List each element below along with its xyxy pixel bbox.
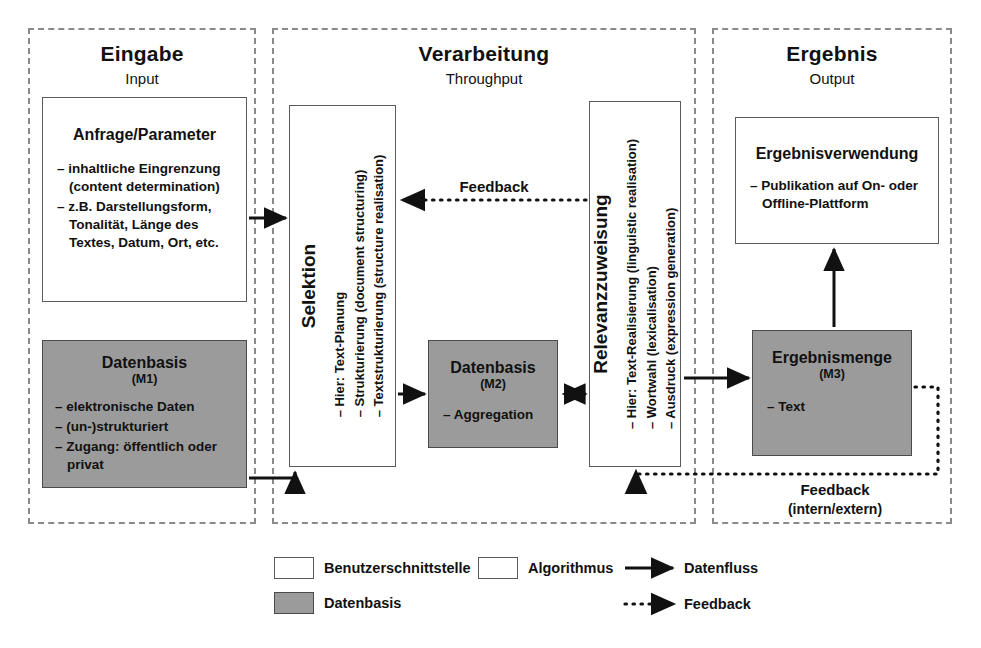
- bullet: – (un-)strukturiert: [55, 418, 238, 436]
- bullet: – Publikation auf On- oder Offline-Platt…: [750, 177, 930, 213]
- legend-swatch-datenbasis: [274, 592, 314, 614]
- bullet: – Aggregation: [443, 406, 551, 424]
- box-datenbasis-m2-title: Datenbasis: [429, 359, 557, 377]
- bullet: – Hier: Text-Planung: [329, 155, 349, 418]
- box-ergebnisverwendung-title: Ergebnisverwendung: [736, 145, 938, 163]
- box-datenbasis-m1[interactable]: Datenbasis (M1) – elektronische Daten – …: [42, 340, 247, 488]
- box-ergebnismenge[interactable]: Ergebnismenge (M3) – Text: [752, 330, 912, 456]
- bullet: – inhaltliche Eingrenzung (content deter…: [57, 160, 236, 196]
- label-feedback-bottom: Feedback: [760, 481, 910, 498]
- bullet: – z.B. Darstellungsform, Tonalität, Läng…: [57, 198, 236, 251]
- box-relevanzzuweisung-bullets: – Hier: Text-Realisierung (linguistic re…: [622, 139, 681, 429]
- box-ergebnismenge-title: Ergebnismenge: [753, 349, 911, 367]
- box-ergebnisverwendung[interactable]: Ergebnisverwendung – Publikation auf On-…: [735, 117, 939, 244]
- label-feedback-bottom-sub: (intern/extern): [760, 501, 910, 517]
- panel-verarbeitung-title: Verarbeitung: [272, 42, 696, 66]
- box-anfrage-parameter[interactable]: Anfrage/Parameter – inhaltliche Eingrenz…: [42, 97, 247, 302]
- box-relevanzzuweisung[interactable]: Relevanzzuweisung – Hier: Text-Realisier…: [589, 101, 681, 467]
- panel-verarbeitung-subtitle: Throughput: [272, 70, 696, 87]
- legend-label-benutzerschnittstelle: Benutzerschnittstelle: [324, 560, 471, 576]
- legend-label-datenbasis: Datenbasis: [324, 595, 401, 611]
- bullet: – Wortwahl (lexicalisation): [641, 139, 661, 429]
- legend-label-algorithmus: Algorithmus: [528, 560, 613, 576]
- box-relevanzzuweisung-title: Relevanzzuweisung: [590, 194, 612, 374]
- label-feedback-top: Feedback: [424, 178, 564, 195]
- panel-eingabe-title: Eingabe: [28, 42, 256, 66]
- box-selektion-content: Selektion – Hier: Text-Planung – Struktu…: [297, 155, 388, 418]
- panel-eingabe-subtitle: Input: [28, 70, 256, 87]
- bullet: – Textstrukturierung (structure realisat…: [368, 155, 388, 418]
- box-datenbasis-m1-title: Datenbasis: [43, 354, 246, 372]
- diagram-canvas: Eingabe Input Verarbeitung Throughput Er…: [0, 0, 981, 648]
- bullet: – Strukturierung (document structuring): [349, 155, 369, 418]
- box-datenbasis-m2[interactable]: Datenbasis (M2) – Aggregation: [428, 340, 558, 448]
- panel-ergebnis-title: Ergebnis: [712, 42, 952, 66]
- box-selektion-bullets: – Hier: Text-Planung – Strukturierung (d…: [329, 155, 388, 418]
- box-relevanzzuweisung-content: Relevanzzuweisung – Hier: Text-Realisier…: [590, 139, 681, 429]
- box-anfrage-bullets: – inhaltliche Eingrenzung (content deter…: [57, 160, 236, 251]
- legend-swatch-benutzerschnittstelle: [274, 557, 314, 579]
- panel-ergebnis-subtitle: Output: [712, 70, 952, 87]
- box-datenbasis-m2-subtitle: (M2): [429, 377, 557, 392]
- legend-swatch-algorithmus: [478, 557, 518, 579]
- bullet: – Zugang: öffentlich oder privat: [55, 438, 238, 474]
- box-ergebnismenge-subtitle: (M3): [753, 367, 911, 382]
- box-selektion-title: Selektion: [297, 244, 319, 328]
- legend-label-datenfluss: Datenfluss: [684, 560, 758, 576]
- box-datenbasis-m2-bullets: – Aggregation: [443, 406, 551, 424]
- box-anfrage-title: Anfrage/Parameter: [43, 126, 246, 144]
- bullet: – Text: [767, 398, 905, 416]
- bullet: – Ausdruck (expression generation): [661, 139, 681, 429]
- box-ergebnisverwendung-bullets: – Publikation auf On- oder Offline-Platt…: [750, 177, 930, 213]
- box-selektion[interactable]: Selektion – Hier: Text-Planung – Struktu…: [289, 105, 396, 467]
- box-datenbasis-m1-bullets: – elektronische Daten – (un-)strukturier…: [55, 398, 238, 473]
- legend-label-feedback: Feedback: [684, 596, 751, 612]
- bullet: – elektronische Daten: [55, 398, 238, 416]
- bullet: – Hier: Text-Realisierung (linguistic re…: [622, 139, 642, 429]
- box-ergebnismenge-bullets: – Text: [767, 398, 905, 416]
- box-datenbasis-m1-subtitle: (M1): [43, 372, 246, 387]
